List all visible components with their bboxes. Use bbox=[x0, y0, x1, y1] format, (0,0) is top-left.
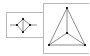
graph-node-right bbox=[29, 24, 31, 26]
graph-node-bottom-left bbox=[48, 44, 50, 46]
graph-node-apex bbox=[66, 7, 68, 9]
graph-node-top bbox=[22, 18, 24, 20]
diagram-canvas bbox=[0, 0, 89, 56]
graph-node-bottom-right bbox=[84, 44, 86, 46]
graph-node-bottom bbox=[22, 31, 24, 33]
left-graph-panel bbox=[7, 13, 44, 38]
right-graph-panel bbox=[44, 4, 90, 54]
graph-node-center bbox=[66, 32, 68, 34]
panel-border bbox=[44, 4, 90, 54]
graph-node-left bbox=[16, 24, 18, 26]
